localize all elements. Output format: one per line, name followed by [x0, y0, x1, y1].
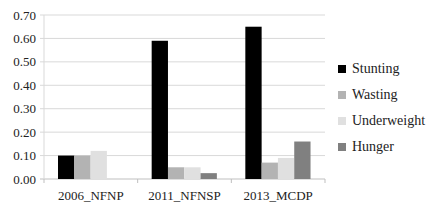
bar-hunger-2013_mcdp	[294, 142, 310, 179]
legend-swatch	[338, 65, 346, 73]
bar-underweight-2011_nfnsp	[184, 167, 200, 179]
bar-stunting-2011_nfnsp	[152, 41, 168, 179]
y-axis-ticks: 0.000.100.200.300.400.500.600.70	[13, 8, 36, 187]
y-tick-label: 0.20	[13, 125, 36, 140]
bar-underweight-2006_nfnp	[91, 151, 107, 179]
legend-item: Underweight	[338, 108, 425, 134]
x-axis: 2006_NFNP2011_NFNSP2013_MCDP	[44, 179, 325, 203]
bar-wasting-2011_nfnsp	[168, 167, 184, 179]
gridlines	[40, 15, 325, 179]
y-tick-label: 0.40	[13, 78, 36, 93]
legend: StuntingWastingUnderweightHunger	[338, 56, 425, 160]
y-tick-label: 0.10	[13, 148, 36, 163]
y-tick-label: 0.50	[13, 54, 36, 69]
y-tick-label: 0.00	[13, 172, 36, 187]
y-tick-label: 0.30	[13, 101, 36, 116]
legend-label: Wasting	[352, 87, 398, 103]
bar-hunger-2011_nfnsp	[201, 173, 217, 179]
bar-stunting-2006_nfnp	[58, 156, 74, 179]
legend-swatch	[338, 91, 346, 99]
legend-item: Hunger	[338, 134, 425, 160]
bars	[58, 27, 311, 179]
legend-label: Hunger	[352, 139, 394, 155]
legend-swatch	[338, 143, 346, 151]
bar-wasting-2013_mcdp	[262, 163, 278, 179]
y-tick-label: 0.70	[13, 8, 36, 23]
x-category-label: 2013_MCDP	[243, 188, 312, 203]
legend-item: Wasting	[338, 82, 425, 108]
bar-stunting-2013_mcdp	[245, 27, 261, 179]
x-category-label: 2011_NFNSP	[148, 188, 220, 203]
legend-item: Stunting	[338, 56, 425, 82]
legend-swatch	[338, 117, 346, 125]
x-category-label: 2006_NFNP	[58, 188, 124, 203]
legend-label: Underweight	[352, 113, 425, 129]
y-tick-label: 0.60	[13, 31, 36, 46]
bar-underweight-2013_mcdp	[278, 158, 294, 179]
legend-label: Stunting	[352, 61, 399, 77]
bar-wasting-2006_nfnp	[74, 156, 90, 179]
